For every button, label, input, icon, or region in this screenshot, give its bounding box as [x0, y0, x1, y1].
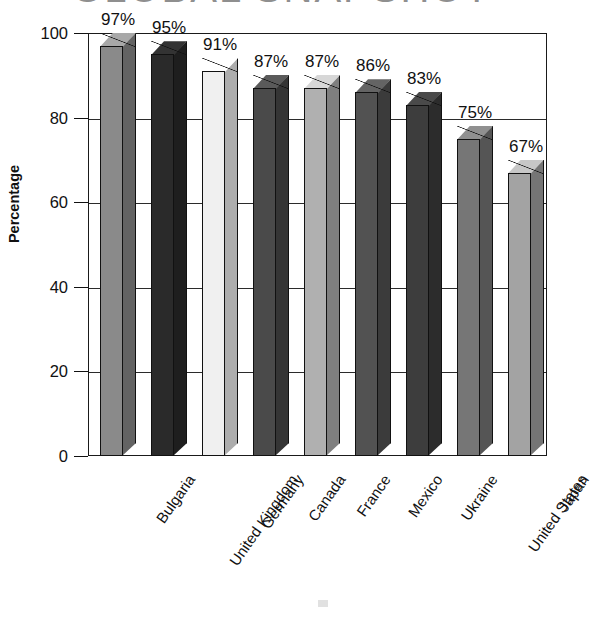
bar-top-edge — [457, 139, 480, 140]
category-label: Ukraine — [458, 472, 500, 523]
bar-value-label: 87% — [295, 53, 349, 70]
bar — [202, 58, 238, 456]
bar-value-label: 97% — [91, 11, 145, 28]
bar — [100, 33, 136, 456]
bar-side-face — [224, 58, 238, 456]
y-axis-tick — [74, 456, 88, 457]
bar — [508, 160, 544, 456]
bar-front-face — [100, 46, 123, 456]
y-axis-label: 80 — [0, 110, 68, 127]
bar-top-edge — [100, 46, 123, 47]
y-axis-tick — [74, 33, 88, 34]
y-axis-tick — [74, 118, 88, 119]
bar-top-edge — [304, 88, 327, 89]
bar-top-edge — [253, 88, 276, 89]
bar-top-edge — [355, 92, 378, 93]
bar-side-face — [275, 75, 289, 456]
bar-front-face — [355, 92, 378, 456]
bar-value-label: 86% — [346, 57, 400, 74]
bar-front-face — [508, 173, 531, 456]
bar-side-face — [173, 41, 187, 456]
category-label: Mexico — [405, 472, 445, 520]
bar-top-edge — [406, 105, 429, 106]
bar-top-edge — [202, 71, 225, 72]
category-label: Canada — [305, 472, 347, 524]
bar — [406, 92, 442, 456]
y-axis-tick — [74, 202, 88, 203]
bar-front-face — [406, 105, 429, 456]
bar-front-face — [202, 71, 225, 456]
y-axis-label: 20 — [0, 363, 68, 380]
bar-front-face — [304, 88, 327, 456]
bar-value-label: 95% — [142, 19, 196, 36]
y-axis-tick — [74, 371, 88, 372]
bar-front-face — [253, 88, 276, 456]
y-axis-label: 100 — [0, 25, 68, 42]
bar-value-label: 91% — [193, 36, 247, 53]
category-label: Bulgaria — [153, 472, 197, 526]
bar — [304, 75, 340, 456]
category-label: France — [354, 472, 393, 519]
bar-side-face — [326, 75, 340, 456]
scan-artifact — [318, 600, 328, 607]
bar-value-label: 67% — [499, 138, 553, 155]
bar-top-edge — [508, 173, 531, 174]
bar-front-face — [457, 139, 480, 456]
bar-side-face — [479, 126, 493, 456]
bar — [253, 75, 289, 456]
y-axis-label: 60 — [0, 194, 68, 211]
bar — [457, 126, 493, 456]
chart-title: GLOBAL SNAPSHOT — [0, 0, 562, 12]
y-axis-label: 0 — [0, 448, 68, 465]
bar-side-face — [377, 79, 391, 456]
bar-front-face — [151, 54, 174, 456]
bar-value-label: 87% — [244, 53, 298, 70]
bar-top-edge — [151, 54, 174, 55]
y-axis-tick — [74, 287, 88, 288]
bar-side-face — [428, 92, 442, 456]
bar-side-face — [122, 33, 136, 456]
bar — [151, 41, 187, 456]
bar-side-face — [530, 160, 544, 456]
bar-value-label: 83% — [397, 70, 451, 87]
bar-value-label: 75% — [448, 104, 502, 121]
y-axis-label: 40 — [0, 279, 68, 296]
bar — [355, 79, 391, 456]
